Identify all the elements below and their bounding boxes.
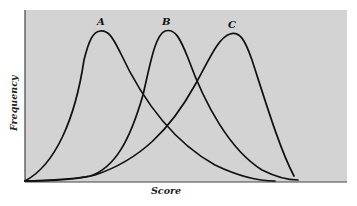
plot-area: [25, 10, 347, 182]
label-curve-a: A: [96, 16, 105, 27]
y-axis-label: Frequency: [8, 74, 19, 132]
distribution-diagram: A B C Score Frequency: [0, 0, 357, 206]
label-curve-b: B: [161, 16, 170, 27]
label-curve-c: C: [228, 19, 236, 30]
x-axis-label: Score: [151, 185, 181, 196]
